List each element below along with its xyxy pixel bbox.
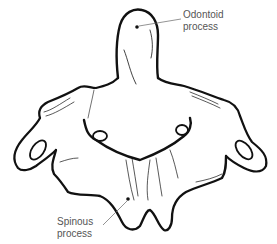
vertebral-foramen-edge — [84, 118, 191, 160]
odontoid-label-line1: Odontoid — [183, 9, 224, 21]
vertebra-body-upper — [39, 78, 118, 118]
odontoid-process-label: Odontoid process — [183, 9, 224, 33]
spinous-label-line1: Spinous — [57, 216, 93, 228]
odontoid-process-outline — [117, 10, 158, 78]
odontoid-label-line2: process — [183, 21, 224, 33]
spinous-label-line2: process — [57, 228, 93, 240]
vertebra-illustration — [0, 0, 277, 244]
vertebra-diagram: Odontoid process Spinous process — [0, 0, 277, 244]
spinous-process-label: Spinous process — [57, 216, 93, 240]
